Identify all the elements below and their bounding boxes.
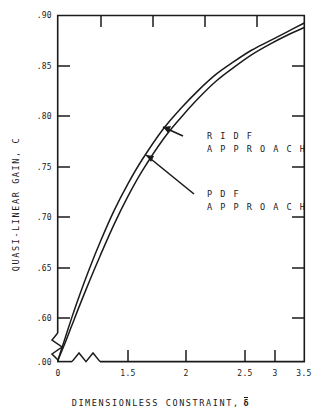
annotation-ridf-line1: R I D F [207,131,253,141]
y-tick-label-85: .85 [37,62,52,71]
y-axis-title: QUASI-LINEAR GAIN, C [11,104,21,304]
axis-bottom-break [72,353,100,362]
y-tick-label-80: .80 [37,112,52,121]
y-tick-marks [58,66,70,318]
x-tick-label-3p5: 3.5 [296,369,311,378]
y-tick-label-90: .90 [37,11,52,20]
x-tick-label-0: 0 [55,369,60,378]
annotation-ridf: R I D F A P P R O A C H [207,131,306,154]
annotation-pdf-line2: A P P R O A C H [207,202,306,212]
x-axis-title: DIMENSIONLESS CONSTRAINT,δ [0,398,322,408]
x-tick-label-1p5: 1.5 [120,369,135,378]
y-tick-label-00: .00 [37,358,52,367]
x-axis-title-symbol: δ [244,398,251,408]
y-tick-label-75: .75 [37,163,52,172]
y-tick-label-65: .65 [37,264,52,273]
y-tick-labels: .90 .85 .80 .75 .70 .65 .60 .00 [37,11,52,367]
y-tick-label-60: .60 [37,314,52,323]
plot-frame [52,15,305,362]
chart-canvas: .90 .85 .80 .75 .70 .65 .60 .00 0 1.5 2 … [0,0,322,420]
x-tick-labels: 0 1.5 2 2.5 3 3.5 [55,369,311,378]
annotation-ridf-line2: A P P R O A C H [207,144,306,154]
x-tick-label-3: 3 [272,369,277,378]
series-line-ridf [58,23,305,361]
x-tick-label-2: 2 [183,369,188,378]
annotation-leaders [146,126,194,194]
leader-line-pdf [146,155,194,194]
chart-figure: .90 .85 .80 .75 .70 .65 .60 .00 0 1.5 2 … [0,0,322,420]
y-tick-label-70: .70 [37,213,52,222]
x-tick-marks [128,350,275,361]
annotation-pdf-line1: P D F [207,189,240,199]
series-line-pdf [58,28,305,361]
x-axis-title-text: DIMENSIONLESS CONSTRAINT, [72,398,240,408]
annotation-pdf: P D F A P P R O A C H [207,189,306,212]
data-curves [58,23,305,361]
x-tick-label-2p5: 2.5 [237,369,252,378]
x-tick-marks-top [101,16,257,27]
y-tick-marks-right [292,66,304,318]
